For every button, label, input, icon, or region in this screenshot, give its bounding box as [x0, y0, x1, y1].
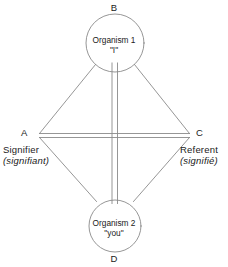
vertex-label-referent: Referent (signifié)	[180, 145, 218, 166]
vertex-left-term-alt: (signifiant)	[3, 156, 49, 167]
corner-letter-d: D	[0, 253, 228, 264]
corner-letter-c: C	[196, 127, 203, 138]
node-top-organism-1: Organism 1 "I"	[0, 35, 228, 56]
node-bottom-organism-2: Organism 2 "you"	[0, 218, 228, 239]
diagram-canvas: B Organism 1 "I" Organism 2 "you" D A Si…	[0, 0, 228, 267]
edge-b-to-c	[135, 65, 190, 134]
node-top-line1: Organism 1	[0, 35, 228, 45]
edge-b-to-a	[40, 65, 96, 134]
node-bottom-line1: Organism 2	[0, 218, 228, 228]
vertex-label-signifier: Signifier (signifiant)	[3, 145, 49, 166]
corner-letter-b: B	[0, 2, 228, 13]
node-top-line2: "I"	[0, 45, 228, 55]
vertex-right-term-alt: (signifié)	[180, 156, 218, 167]
node-bottom-line2: "you"	[0, 228, 228, 238]
corner-letter-a: A	[21, 127, 27, 138]
